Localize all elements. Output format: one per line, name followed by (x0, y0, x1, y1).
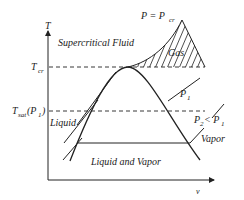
svg-text:cr: cr (38, 67, 44, 75)
critical-isobar (128, 20, 205, 67)
gas-label: Gas (168, 47, 184, 58)
svg-text:T: T (31, 61, 38, 72)
saturation-dome (70, 67, 200, 161)
y-axis-label: T (45, 20, 52, 31)
svg-text:< P: < P (204, 114, 219, 125)
svg-text:P = P: P = P (140, 10, 165, 21)
p-cr-label: P = P cr (140, 10, 175, 24)
supercritical-label: Supercritical Fluid (58, 37, 135, 48)
vapor-label: Vapor (201, 133, 225, 144)
svg-text:cr: cr (169, 16, 175, 24)
svg-text:): ) (41, 105, 46, 117)
svg-text:1: 1 (221, 120, 225, 128)
svg-text:sat: sat (18, 111, 27, 119)
x-axis-label: v (196, 187, 200, 196)
svg-text:P: P (179, 88, 186, 99)
p1-label: P 1 (179, 88, 191, 102)
svg-text:1: 1 (38, 111, 42, 119)
two-phase-label: Liquid and Vapor (90, 156, 161, 167)
p2-label: P 2 < P 1 (193, 114, 225, 128)
t-sat-label: T sat (P 1 ) (12, 105, 46, 119)
phase-diagram: T v Supercritical Fluid Gas Liquid Vapor… (0, 0, 244, 200)
svg-text:(P: (P (27, 105, 36, 117)
liquid-label: Liquid (49, 117, 77, 128)
t-cr-label: T cr (31, 61, 44, 75)
svg-text:1: 1 (187, 94, 191, 102)
